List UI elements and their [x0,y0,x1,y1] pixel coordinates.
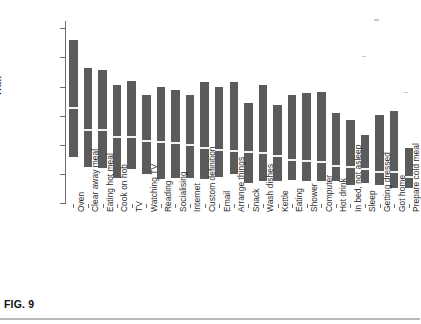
x-tick [409,204,410,208]
x-label-getting-dressed: Getting dressed [383,152,391,212]
x-tick [117,204,118,208]
x-tick [146,204,147,208]
x-label-tv: TV [135,201,143,212]
median-marker [186,144,195,146]
y-tick-0 [60,203,65,204]
x-label-arrange-things: Arrange things [237,157,245,212]
x-tick [234,204,235,208]
median-marker [127,136,136,138]
scan-artifact [362,56,366,57]
x-tick [394,204,395,208]
range-bar [317,92,326,181]
range-bar [186,95,195,178]
x-tick [307,204,308,208]
median-marker [317,161,326,163]
y-axis-title: Watt [0,76,3,96]
x-label-internet: Internet [193,183,201,212]
x-label-oven: Oven [77,192,85,212]
x-label-email: Email [223,191,231,212]
x-label-custom-definition: Custom definition [208,146,216,212]
y-tick-1000 [60,57,65,58]
range-bar [142,95,151,174]
x-tick [321,204,322,208]
scan-artifact [374,19,379,21]
range-bar [332,113,341,181]
x-label-shower: Shower [310,183,318,212]
median-marker [273,155,282,157]
x-label-got-home: Got home [398,175,406,212]
median-marker [288,159,297,161]
page-bottom-rule [0,318,420,320]
x-label-wash-dishes: Wash dishes [266,164,274,212]
y-tick-200 [60,174,65,175]
median-marker [332,165,341,167]
x-label-snack: Snack [252,188,260,212]
median-marker [142,140,151,142]
range-bar [127,81,136,170]
x-label-in-bed-not-asleep: In bed, not asleep [354,145,362,213]
x-tick [219,204,220,208]
y-tick-400 [60,145,65,146]
x-tick [380,204,381,208]
median-marker [157,141,166,143]
x-label-kettle: Kettle [281,190,289,212]
range-bar [171,90,180,178]
x-tick [278,204,279,208]
x-tick [73,204,74,208]
median-marker [302,160,311,162]
x-label-reading: Reading [164,180,172,212]
range-bar [288,95,297,181]
x-label-hot-drink: Hot drink [339,178,347,212]
median-marker [171,142,180,144]
y-tick-600 [60,116,65,117]
x-label-sleep: Sleep [368,190,376,212]
x-tick [263,204,264,208]
x-label-eating: Eating [295,188,303,212]
x-tick [336,204,337,208]
x-label-prepare-cold-meal: Prepare cold meal [412,143,420,212]
range-bar [302,93,311,181]
range-bar [69,40,78,157]
x-tick [161,204,162,208]
x-tick [88,204,89,208]
median-marker [84,129,93,131]
y-tick-800 [60,87,65,88]
x-tick [103,204,104,208]
median-marker [244,151,253,153]
x-tick [248,204,249,208]
x-tick [365,204,366,208]
x-label-computer: Computer [325,175,333,212]
x-tick [132,204,133,208]
x-label-cook-on-hob: Cook on hob [120,164,128,212]
x-tick [175,204,176,208]
median-marker [259,152,268,154]
x-tick [350,204,351,208]
median-marker [69,107,78,109]
x-label-watching-tv: Watching TV [150,164,158,212]
median-marker [98,129,107,131]
x-label-eating-hot-meal: Eating hot meal [106,153,114,212]
median-marker [113,136,122,138]
x-label-socialising: Socialising [179,171,187,212]
y-tick-1200 [60,28,65,29]
x-tick [292,204,293,208]
x-label-clear-away-meal: Clear away meal [91,149,99,212]
scan-artifact [404,92,408,93]
figure-caption: FIG. 9 [4,298,34,310]
x-tick [205,204,206,208]
median-marker [230,150,239,152]
x-tick [190,204,191,208]
